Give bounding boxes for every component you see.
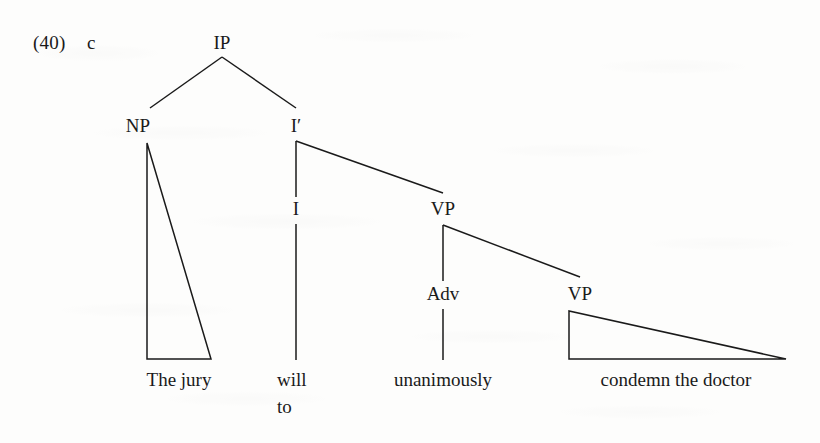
node-vp-upper: VP xyxy=(431,198,455,220)
node-i: I xyxy=(293,198,299,220)
terminal-np-text: The jury xyxy=(147,369,212,391)
tree-triangles xyxy=(147,143,786,359)
node-adv: Adv xyxy=(427,283,460,305)
edge-vp-to-vp xyxy=(443,225,580,277)
edge-ibar-to-vp xyxy=(296,141,443,193)
node-vp-lower: VP xyxy=(568,283,592,305)
terminal-i-text-will: will xyxy=(277,369,307,391)
terminal-adv-text: unanimously xyxy=(394,369,492,391)
edge-ip-to-ibar xyxy=(222,57,296,108)
figure-page: (40) c IP NP I′ I VP Adv VP The jury wil… xyxy=(0,0,820,443)
node-i-bar: I′ xyxy=(291,115,301,137)
terminal-vp-text: condemn the doctor xyxy=(601,369,752,391)
terminal-i-text-to: to xyxy=(277,396,292,418)
tree-edges xyxy=(150,57,580,360)
node-np: NP xyxy=(126,115,150,137)
node-ip: IP xyxy=(214,32,231,54)
np-triangle xyxy=(147,143,211,359)
edge-ip-to-np xyxy=(150,57,222,108)
vp-triangle xyxy=(569,311,786,359)
